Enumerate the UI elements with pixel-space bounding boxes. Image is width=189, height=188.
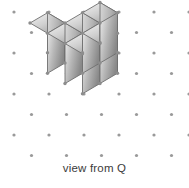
cube-vertex-dot <box>81 32 84 35</box>
cube-vertex-dot <box>81 92 84 95</box>
cube-vertex-dot <box>98 61 101 64</box>
cube-vertex-dot <box>63 42 66 45</box>
cube-vertex-dot <box>63 21 66 24</box>
cube-vertex-dot <box>98 41 101 44</box>
cube-vertex-dot <box>98 1 101 4</box>
cube-vertex-dot <box>81 72 84 75</box>
cube-vertex-dot <box>46 72 49 75</box>
cube-vertex-dot <box>46 51 49 54</box>
cube-vertex-dot <box>116 11 119 14</box>
cube-vertex-dot <box>46 32 49 35</box>
cube-vertex-dot <box>116 72 119 75</box>
cube-vertex-dot <box>116 32 119 35</box>
cube-vertex-dot <box>63 61 66 64</box>
isometric-figure: view from Q <box>0 0 189 188</box>
figure-caption: view from Q <box>0 162 189 174</box>
cube-vertex-dot <box>46 11 49 14</box>
cube-vertex-dot <box>116 51 119 54</box>
cube-stack-drawing <box>0 0 189 188</box>
cube-vertex-dot <box>98 21 101 24</box>
cube-vertex-dot <box>98 82 101 85</box>
cube-vertex-dot <box>28 21 31 24</box>
cube-vertex-dot <box>63 82 66 85</box>
cube-vertex-dot <box>81 51 84 54</box>
cube-vertex-dot <box>81 11 84 14</box>
